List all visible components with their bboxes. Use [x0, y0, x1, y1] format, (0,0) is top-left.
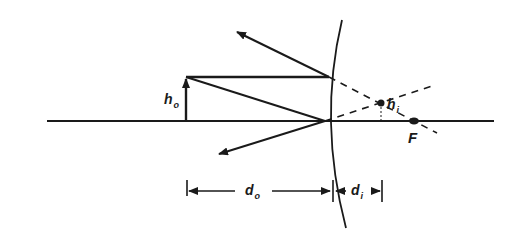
image-height-subscript: i — [397, 105, 400, 115]
focal-point-marker — [409, 118, 419, 125]
object-height-subscript: o — [174, 100, 180, 110]
image-distance-symbol: d — [351, 182, 360, 198]
image-distance-label: di — [351, 183, 363, 197]
reflected-ray-upper — [237, 32, 329, 77]
image-height-symbol: h — [387, 96, 396, 112]
object-distance-subscript: o — [255, 191, 261, 201]
incident-ray-vertex — [186, 77, 325, 121]
image-height-label: hi — [387, 97, 399, 111]
ray-diagram — [0, 0, 524, 248]
image-point — [378, 100, 385, 107]
object-distance-symbol: d — [245, 182, 254, 198]
object-height-label: ho — [164, 92, 179, 106]
image-distance-subscript: i — [361, 191, 364, 201]
reflected-ray-lower — [219, 121, 325, 154]
object-height-symbol: h — [164, 91, 173, 107]
focal-point-label: F — [408, 130, 417, 145]
focal-point-symbol: F — [408, 129, 417, 146]
object-distance-label: do — [245, 183, 260, 197]
